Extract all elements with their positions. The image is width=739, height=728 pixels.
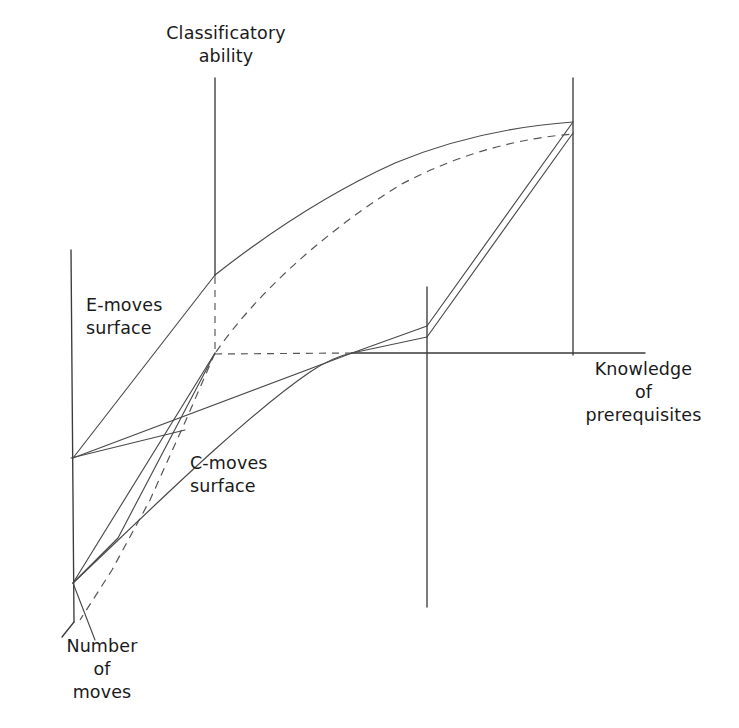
label-e-moves-line1: E-moves [86, 295, 162, 315]
label-knowledge-line3: prerequisites [586, 405, 702, 425]
label-knowledge-prerequisites: Knowledge of prerequisites [556, 358, 731, 426]
label-number-line3: moves [73, 682, 132, 702]
axis-number-of-moves [71, 250, 74, 622]
e-surface-hidden-curve [216, 134, 573, 352]
label-number-line2: of [93, 659, 110, 679]
c-surface-upper-edge-left [73, 353, 352, 458]
c-surface-bottom-tail [73, 583, 95, 640]
label-number-line1: Number [66, 636, 137, 656]
label-classificatory-ability: Classificatory ability [161, 22, 291, 68]
e-surface-upper-curve [215, 122, 573, 275]
label-number-of-moves: Number of moves [42, 635, 162, 703]
label-e-moves-line2: surface [86, 318, 152, 338]
label-e-moves-surface: E-moves surface [86, 294, 216, 340]
label-c-moves-surface: C-moves surface [190, 452, 320, 498]
label-knowledge-line1: Knowledge [595, 359, 693, 379]
label-c-moves-line1: C-moves [190, 453, 268, 473]
label-knowledge-line2: of [635, 382, 652, 402]
label-classificatory-line1: Classificatory [166, 23, 286, 43]
e-surface-right-edge-lower [427, 133, 573, 337]
construction-horizontal-dashed [215, 353, 352, 354]
label-classificatory-line2: ability [199, 46, 254, 66]
e-surface-right-edge [427, 122, 573, 326]
figure-root: Classificatory ability Knowledge of prer… [0, 0, 739, 728]
label-c-moves-line2: surface [190, 476, 256, 496]
